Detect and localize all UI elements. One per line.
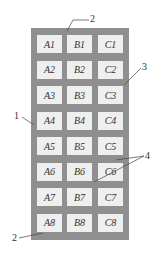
callout-3: 3 — [142, 61, 147, 72]
leader-lines — [0, 0, 157, 253]
callout-2-bottom: 2 — [12, 232, 17, 243]
callout-1: 1 — [14, 110, 19, 121]
callout-4: 4 — [145, 150, 150, 161]
callout-2-top: 2 — [90, 13, 95, 24]
